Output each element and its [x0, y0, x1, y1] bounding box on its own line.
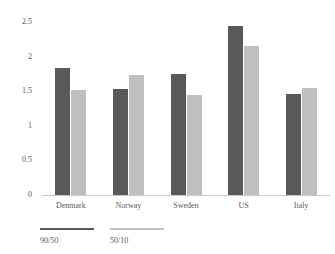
bar-us-50-10 — [244, 46, 259, 196]
bar-group — [228, 12, 259, 196]
bar-group — [113, 12, 144, 196]
bar-denmark-50-10 — [71, 90, 86, 196]
y-axis-tick-label: 1.5 — [22, 87, 32, 95]
bar-norway-50-10 — [129, 75, 144, 196]
legend-swatch-icon — [110, 228, 164, 230]
y-axis-tick-label: 2 — [28, 53, 32, 61]
bar-group — [286, 12, 317, 196]
legend-label: 90/50 — [40, 236, 94, 245]
y-axis: 00.511.522.5 — [0, 0, 40, 254]
bar-group — [171, 12, 202, 196]
bar-italy-90-50 — [286, 94, 301, 196]
x-axis-category-label: Italy — [266, 201, 335, 211]
bar-norway-90-50 — [113, 89, 128, 196]
legend-swatch-icon — [40, 228, 94, 230]
bar-chart: 00.511.522.5 90/5050/10 DenmarkNorwaySwe… — [0, 0, 335, 254]
y-axis-tick-label: 2.5 — [22, 18, 32, 26]
y-axis-tick-label: 0.5 — [22, 156, 32, 164]
bar-italy-50-10 — [302, 88, 317, 196]
y-axis-tick-label: 0 — [28, 191, 32, 199]
bar-group — [55, 12, 86, 196]
legend-item-50-10[interactable]: 50/10 — [110, 228, 164, 245]
bar-sweden-50-10 — [187, 95, 202, 196]
chart-legend: 90/5050/10 — [40, 228, 330, 254]
legend-item-90-50[interactable]: 90/50 — [40, 228, 94, 245]
bar-denmark-90-50 — [55, 68, 70, 196]
legend-label: 50/10 — [110, 236, 164, 245]
y-axis-tick-label: 1 — [28, 122, 32, 130]
bar-us-90-50 — [228, 26, 243, 196]
x-axis-line — [42, 195, 330, 196]
bar-sweden-90-50 — [171, 74, 186, 196]
plot-area — [42, 12, 330, 196]
